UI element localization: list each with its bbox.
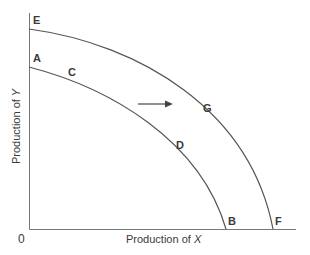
y-axis-title-prefix: Production of bbox=[10, 96, 22, 164]
label-d: D bbox=[176, 139, 184, 151]
x-axis-title-prefix: Production of bbox=[126, 233, 194, 245]
label-a: A bbox=[33, 52, 41, 64]
arrow-head-icon bbox=[165, 101, 173, 108]
x-axis-title: Production of X bbox=[126, 233, 202, 245]
y-axis-title: Production of Y bbox=[10, 88, 22, 164]
ppf-curve-ab bbox=[29, 67, 226, 229]
ppf-chart: E A C G D B F 0 Production of X Producti… bbox=[0, 0, 310, 255]
label-g: G bbox=[203, 102, 212, 114]
y-axis-title-var: Y bbox=[10, 88, 22, 96]
label-f: F bbox=[275, 215, 282, 227]
origin-label: 0 bbox=[18, 232, 25, 246]
x-axis-title-var: X bbox=[193, 233, 202, 245]
label-e: E bbox=[33, 14, 40, 26]
label-c: C bbox=[68, 66, 76, 78]
label-b: B bbox=[228, 215, 236, 227]
ppf-curve-ef bbox=[29, 29, 273, 229]
